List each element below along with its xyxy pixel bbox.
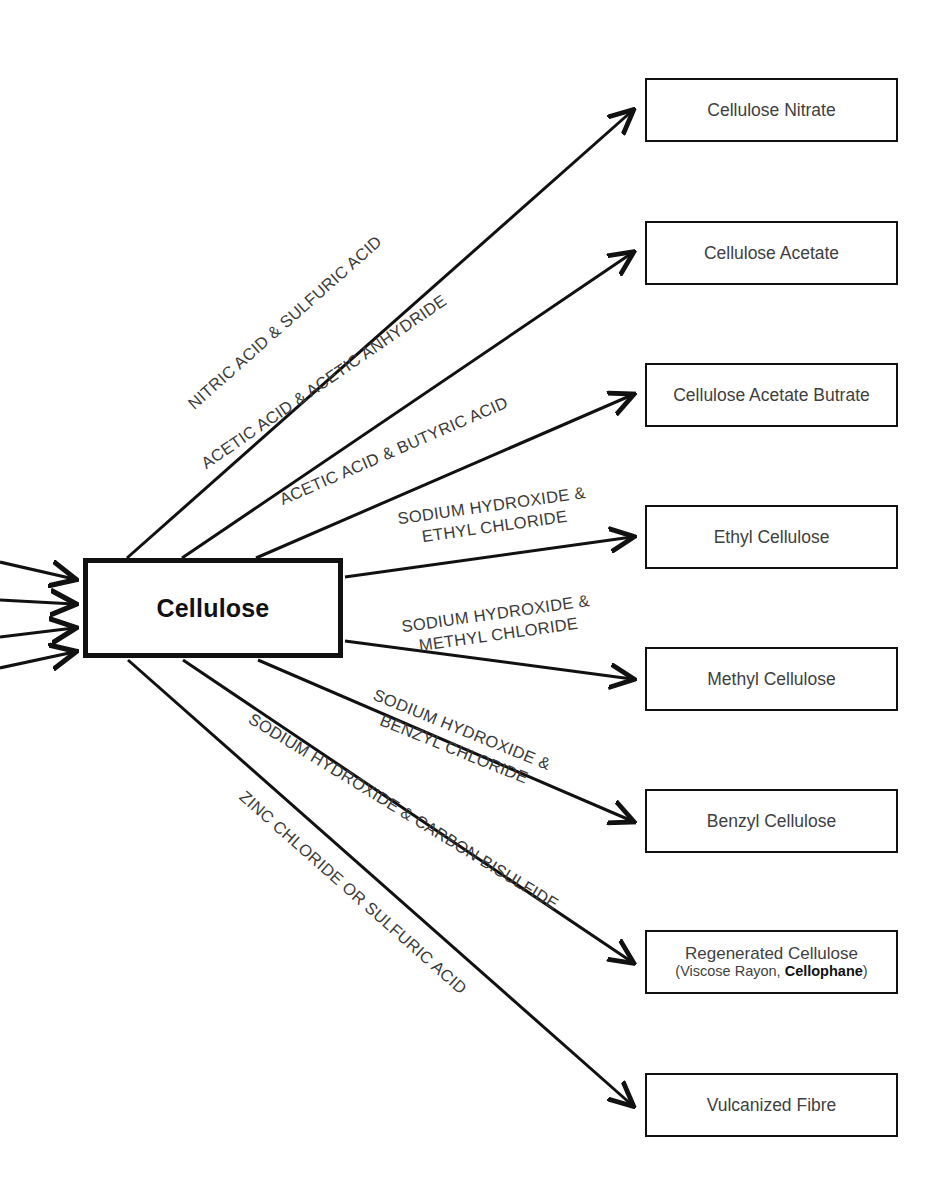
product-sublabel-7: (Viscose Rayon, Cellophane) bbox=[675, 964, 867, 980]
product-label-7: Regenerated Cellulose bbox=[685, 944, 858, 964]
product-sublabel-7-suffix: ) bbox=[863, 963, 868, 979]
product-label-5: Methyl Cellulose bbox=[707, 669, 835, 689]
product-sublabel-7-prefix: (Viscose Rayon, bbox=[675, 963, 784, 979]
input-arrow-3 bbox=[0, 628, 74, 637]
diagram-canvas: Cellulose NITRIC ACID & SULFURIC ACID AC… bbox=[0, 0, 950, 1197]
source-node-cellulose[interactable]: Cellulose bbox=[83, 558, 343, 658]
input-arrow-4 bbox=[0, 652, 74, 668]
product-label-6: Benzyl Cellulose bbox=[707, 811, 836, 831]
product-label-4: Ethyl Cellulose bbox=[714, 527, 830, 547]
source-node-label: Cellulose bbox=[157, 594, 270, 623]
product-node-cellulose-acetate[interactable]: Cellulose Acetate bbox=[645, 221, 898, 285]
product-node-vulcanized-fibre[interactable]: Vulcanized Fibre bbox=[645, 1073, 898, 1137]
input-arrow-2 bbox=[0, 600, 74, 604]
product-node-methyl-cellulose[interactable]: Methyl Cellulose bbox=[645, 647, 898, 711]
product-label-2: Cellulose Acetate bbox=[704, 243, 839, 263]
product-label-1: Cellulose Nitrate bbox=[707, 100, 835, 120]
product-node-cellulose-acetate-butrate[interactable]: Cellulose Acetate Butrate bbox=[645, 363, 898, 427]
product-label-8: Vulcanized Fibre bbox=[707, 1095, 837, 1115]
product-node-ethyl-cellulose[interactable]: Ethyl Cellulose bbox=[645, 505, 898, 569]
branch-line-4 bbox=[345, 537, 632, 577]
input-arrow-1 bbox=[0, 562, 74, 579]
product-node-regenerated-cellulose[interactable]: Regenerated Cellulose (Viscose Rayon, Ce… bbox=[645, 930, 898, 994]
product-sublabel-7-bold: Cellophane bbox=[785, 963, 863, 979]
product-node-cellulose-nitrate[interactable]: Cellulose Nitrate bbox=[645, 78, 898, 142]
product-label-3: Cellulose Acetate Butrate bbox=[673, 385, 870, 405]
product-node-benzyl-cellulose[interactable]: Benzyl Cellulose bbox=[645, 789, 898, 853]
